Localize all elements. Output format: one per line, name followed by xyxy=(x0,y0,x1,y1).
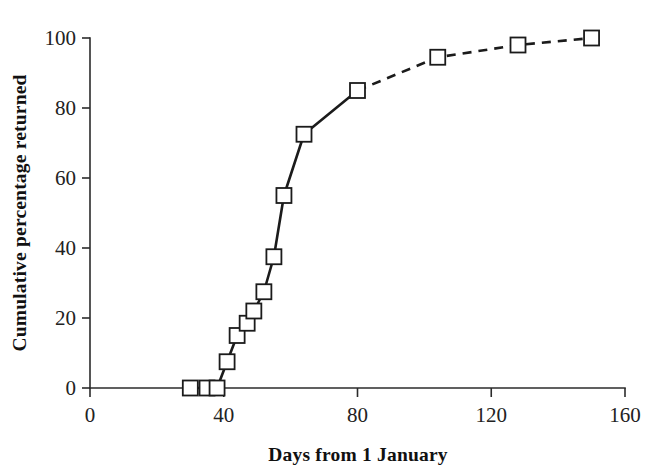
data-point-marker: 64, 72.5 xyxy=(297,127,312,142)
data-point-marker: 38, 0 xyxy=(210,381,225,396)
chart-container: 020406080100 04080120160 30, 035, 038, 0… xyxy=(0,0,662,473)
series-line-solid xyxy=(190,91,357,389)
x-tick-label: 160 xyxy=(609,403,641,427)
series-line-dashed xyxy=(358,38,592,91)
data-point-marker: 150, 100 xyxy=(584,31,599,46)
x-tick-label: 0 xyxy=(85,403,96,427)
data-point-marker: 58, 55 xyxy=(276,188,291,203)
y-axis-title: Cumulative percentage returned xyxy=(9,74,30,351)
data-point-marker: 49, 22 xyxy=(246,304,261,319)
data-markers: 30, 035, 038, 041, 7.544, 1547, 18.549, … xyxy=(183,31,599,396)
y-tick-label: 0 xyxy=(66,376,77,400)
y-tick-label: 80 xyxy=(55,96,76,120)
data-point-marker: 30, 0 xyxy=(183,381,198,396)
y-tick-label: 100 xyxy=(45,26,77,50)
data-series xyxy=(190,38,591,388)
data-point-marker: 104, 94.5 xyxy=(430,50,445,65)
data-point-marker: 128, 98 xyxy=(511,38,526,53)
x-tick-label: 40 xyxy=(213,403,234,427)
data-point-marker: 41, 7.5 xyxy=(220,354,235,369)
x-tick-label: 80 xyxy=(347,403,368,427)
line-chart: 020406080100 04080120160 30, 035, 038, 0… xyxy=(0,0,662,473)
y-tick-label: 60 xyxy=(55,166,76,190)
x-axis-title: Days from 1 January xyxy=(268,444,448,465)
y-tick-label: 40 xyxy=(55,236,76,260)
data-point-marker: 55, 37.5 xyxy=(266,249,281,264)
y-axis: 020406080100 xyxy=(45,26,91,400)
y-tick-label: 20 xyxy=(55,306,76,330)
x-tick-label: 120 xyxy=(476,403,508,427)
x-axis: 04080120160 xyxy=(85,388,641,427)
data-point-marker: 80, 85 xyxy=(350,83,365,98)
data-point-marker: 52, 27.5 xyxy=(256,284,271,299)
